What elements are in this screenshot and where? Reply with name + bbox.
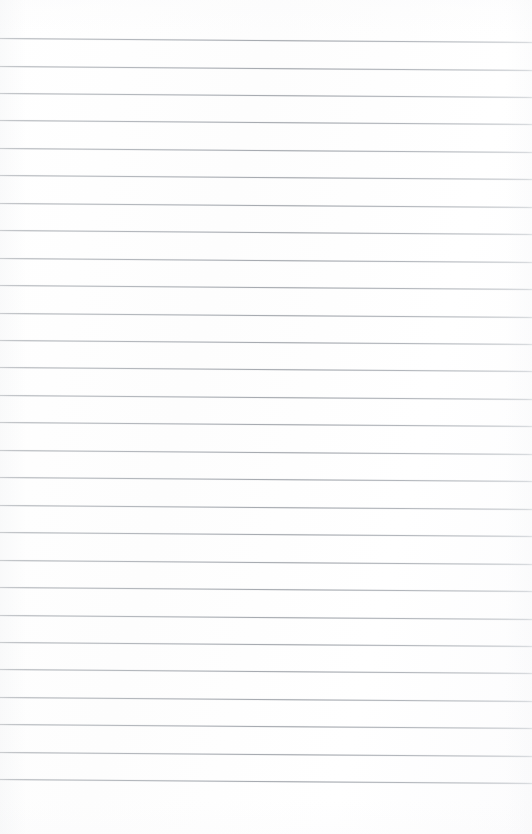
ruled-line bbox=[0, 367, 532, 372]
ruled-line bbox=[0, 560, 532, 565]
scanned-page bbox=[0, 0, 532, 834]
ruled-lines-layer bbox=[0, 0, 532, 834]
ruled-line bbox=[0, 285, 532, 290]
ruled-line bbox=[0, 38, 532, 43]
ruled-line bbox=[0, 587, 532, 592]
ruled-line bbox=[0, 697, 532, 702]
ruled-line bbox=[0, 615, 532, 620]
ruled-line bbox=[0, 148, 532, 153]
ruled-line bbox=[0, 395, 532, 400]
ruled-line bbox=[0, 340, 532, 345]
ruled-line bbox=[0, 313, 532, 318]
ruled-line bbox=[0, 669, 532, 674]
ruled-line bbox=[0, 779, 532, 784]
ruled-line bbox=[0, 477, 532, 482]
ruled-line bbox=[0, 532, 532, 537]
ruled-line bbox=[0, 230, 532, 235]
ruled-line bbox=[0, 450, 532, 455]
ruled-line bbox=[0, 66, 532, 71]
ruled-line bbox=[0, 505, 532, 510]
ruled-line bbox=[0, 422, 532, 427]
ruled-line bbox=[0, 120, 532, 125]
ruled-line bbox=[0, 724, 532, 729]
ruled-line bbox=[0, 203, 532, 208]
ruled-line bbox=[0, 642, 532, 647]
ruled-line bbox=[0, 258, 532, 263]
ruled-line bbox=[0, 93, 532, 98]
ruled-line bbox=[0, 175, 532, 180]
ruled-line bbox=[0, 752, 532, 757]
